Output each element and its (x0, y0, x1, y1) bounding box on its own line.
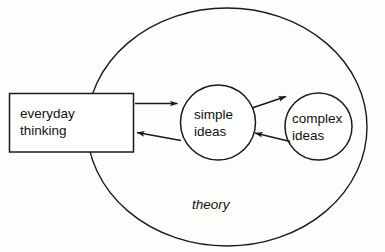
everyday-thinking-box (10, 94, 134, 153)
arrow-simple-to-everyday (137, 133, 181, 141)
diagram-figure (0, 0, 385, 252)
arrow-complex-to-simple (255, 133, 290, 142)
diagram-canvas: everydaythinking simpleideas complexidea… (0, 0, 385, 252)
simple-ideas-circle (181, 85, 256, 160)
complex-ideas-circle (285, 93, 352, 160)
arrow-simple-to-complex (252, 97, 286, 109)
